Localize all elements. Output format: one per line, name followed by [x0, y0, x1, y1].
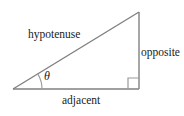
theta-angle-label: θ	[44, 70, 50, 82]
hypotenuse-side-line	[13, 12, 139, 89]
hypotenuse-label: hypotenuse	[28, 29, 80, 41]
opposite-label: opposite	[141, 47, 180, 59]
right-triangle-diagram: hypotenuse opposite adjacent θ	[0, 0, 184, 116]
angle-arc-icon	[38, 74, 42, 89]
adjacent-label: adjacent	[62, 95, 100, 107]
right-angle-marker-icon	[128, 78, 139, 89]
